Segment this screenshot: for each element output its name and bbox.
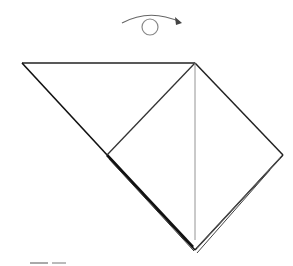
origami-diagram <box>0 0 293 266</box>
folded-paper-shape <box>22 63 283 253</box>
turn-over-icon <box>122 15 182 35</box>
